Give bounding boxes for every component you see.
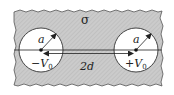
right-radius-label: a [133, 34, 140, 45]
separation-label: 2d [80, 61, 94, 72]
right-potential-label: +V0 [125, 58, 147, 71]
conductivity-label: σ [81, 14, 89, 26]
right-potential-subscript: 0 [142, 63, 146, 71]
left-center-dot [39, 48, 43, 52]
left-potential-label: −V0 [31, 58, 53, 71]
left-radius-label: a [38, 34, 45, 45]
right-potential-symbol: V [134, 57, 142, 70]
left-potential-sign: − [31, 57, 40, 70]
right-center-dot [134, 48, 138, 52]
right-potential-sign: + [125, 57, 134, 70]
left-potential-subscript: 0 [48, 63, 52, 71]
left-potential-symbol: V [40, 57, 48, 70]
